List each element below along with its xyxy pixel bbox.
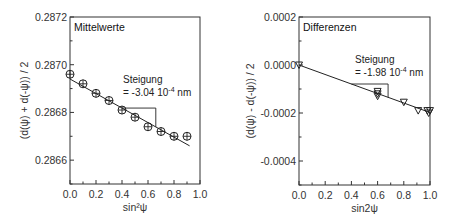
chart-canvas: 0.00.20.40.60.81.00.28660.28680.28700.28… [0,0,452,223]
x-tick-label: 0.6 [141,188,156,200]
x-axis-title: sin²ψ [123,201,147,213]
x-tick-label: 0.4 [115,188,130,200]
chart-panel-1: 0.00.20.40.60.81.00.28660.28680.28700.28… [18,11,207,213]
y-axis-title: (d(ψ) + d(-ψ)) / 2 [18,61,30,139]
y-tick-label: -0.0004 [260,155,296,167]
x-axis-title: sin2ψ [351,202,378,214]
x-tick-label: 0.8 [167,188,182,200]
data-point-marker [105,97,113,105]
x-tick-label: 1.0 [193,188,208,200]
slope-value: = -3.04 10-4 nm [123,86,191,98]
y-tick-label: 0.0002 [264,11,296,23]
x-tick-label: 0.2 [318,189,333,201]
slope-value: = -1.98 10-4 nm [355,66,423,78]
x-tick-label: 0.0 [63,188,78,200]
y-tick-label: 0.2866 [35,154,67,166]
slope-label: Steigung [355,54,394,65]
y-tick-label: 0.2872 [35,11,67,23]
chart-panel-2: 0.00.20.40.60.81.0-0.0004-0.00020.00000.… [244,11,437,214]
y-tick-label: 0.2868 [35,106,67,118]
data-point-marker [131,113,139,121]
y-tick-label: 0.2870 [35,59,67,71]
data-point-marker [118,106,126,114]
x-tick-label: 0.0 [292,189,307,201]
x-tick-label: 0.8 [396,189,411,201]
plot-frame [70,17,200,184]
panel-title: Differenzen [303,21,357,33]
slope-label: Steigung [123,74,162,85]
x-tick-label: 0.6 [370,189,385,201]
data-point-marker [79,80,87,88]
data-point-marker [157,128,165,136]
panel-title: Mittelwerte [74,21,125,33]
x-tick-label: 0.2 [89,188,104,200]
y-axis-title: (d(ψ) - d(-ψ)) / 2 [244,63,256,138]
data-point-marker [183,132,191,140]
data-point-marker [170,132,178,140]
y-tick-label: -0.0002 [260,107,296,119]
y-tick-label: 0.0000 [264,59,296,71]
data-point-marker [92,89,100,97]
data-point-marker [66,70,74,78]
data-point-marker [144,123,152,131]
plot-frame [299,17,430,185]
x-tick-label: 0.4 [344,189,359,201]
x-tick-label: 1.0 [423,189,438,201]
